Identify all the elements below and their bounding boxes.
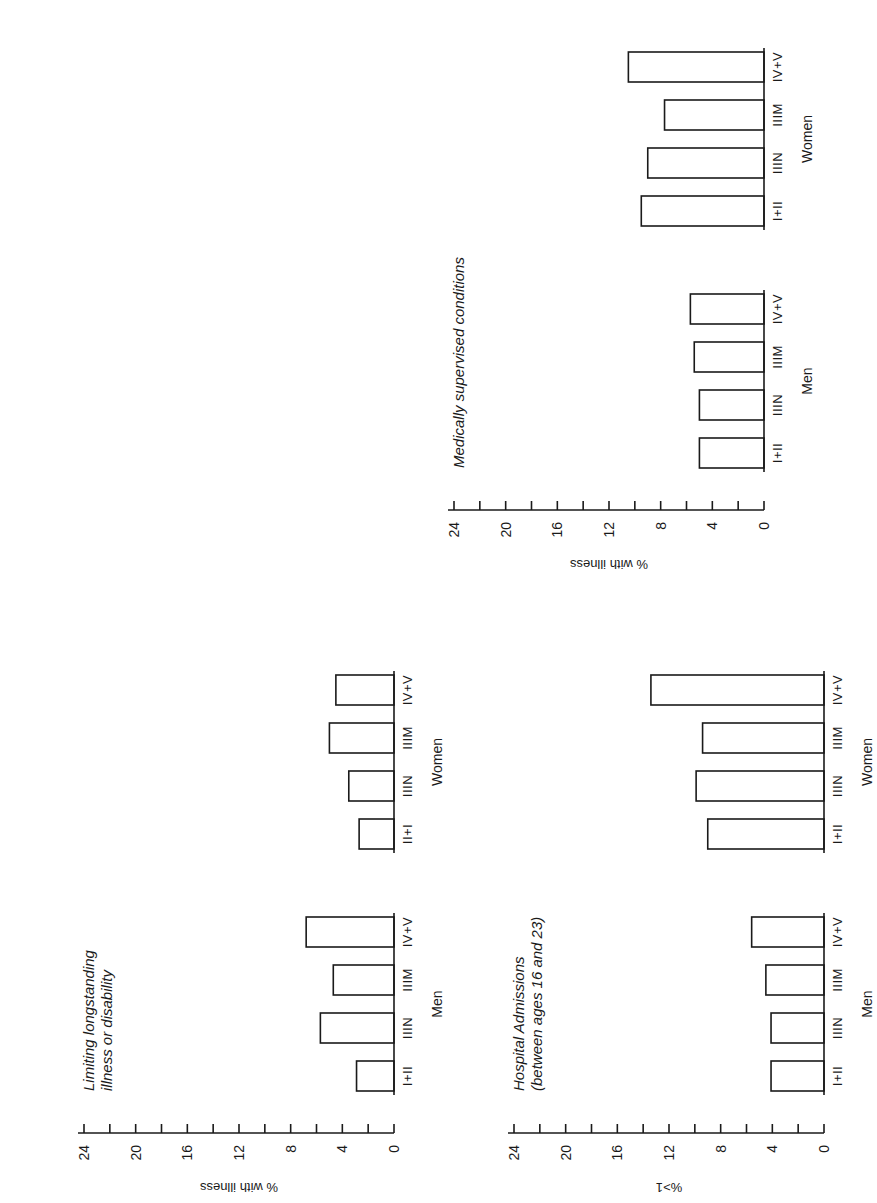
bar-men-iv-plus-v xyxy=(752,917,824,947)
bar-women-iiin xyxy=(648,148,764,178)
y-tick-label: 4 xyxy=(704,522,720,530)
bar-women-iv-plus-v xyxy=(651,675,824,705)
group-label-men: Men xyxy=(859,990,875,1017)
y-axis-title: %>1 xyxy=(656,1180,682,1195)
bar-men-iiin xyxy=(320,1013,394,1043)
category-label: IIIN xyxy=(830,1017,845,1039)
bar-women-iv-plus-v xyxy=(628,52,764,82)
bar-men-iiim xyxy=(766,965,824,995)
y-tick-label: 16 xyxy=(179,1145,195,1161)
chart-title: illness or disability xyxy=(98,969,115,1091)
y-tick-label: 12 xyxy=(661,1145,677,1161)
category-label: IIIM xyxy=(770,103,785,127)
category-label: I+II xyxy=(400,1066,415,1086)
bar-women-iiim xyxy=(665,100,764,130)
category-label: I+II xyxy=(770,443,785,463)
category-label: IV+V xyxy=(770,294,785,325)
y-axis-title: % with illness xyxy=(569,557,648,572)
bar-women-i-plus-ii xyxy=(708,819,824,849)
chart-title: Medically supervised conditions xyxy=(450,257,467,468)
group-label-men: Men xyxy=(429,990,445,1017)
y-tick-label: 12 xyxy=(231,1145,247,1161)
category-label: IIIN xyxy=(770,152,785,174)
category-label: IV+V xyxy=(770,52,785,83)
category-label: II+I xyxy=(400,824,415,844)
group-label-men: Men xyxy=(799,367,815,394)
y-tick-label: 4 xyxy=(334,1145,350,1153)
category-label: IIIN xyxy=(830,775,845,797)
bar-women-iiim xyxy=(329,723,394,753)
y-tick-label: 20 xyxy=(498,522,514,538)
category-label: IIIM xyxy=(400,726,415,750)
bar-men-i-plus-ii xyxy=(771,1061,824,1091)
category-label: IIIN xyxy=(400,775,415,797)
chart-title: Hospital Admissions xyxy=(510,956,527,1091)
bar-men-iiim xyxy=(694,342,764,372)
category-label: IIIN xyxy=(770,394,785,416)
category-label: IIIM xyxy=(770,345,785,369)
y-tick-label: 24 xyxy=(506,1145,522,1161)
bar-men-i-plus-ii xyxy=(699,438,764,468)
category-label: IV+V xyxy=(830,675,845,706)
chart-title: (between ages 16 and 23) xyxy=(528,917,545,1091)
y-tick-label: 8 xyxy=(713,1145,729,1153)
category-label: IV+V xyxy=(400,917,415,948)
category-label: IIIM xyxy=(400,968,415,992)
y-tick-label: 4 xyxy=(764,1145,780,1153)
bar-women-i-plus-ii xyxy=(641,196,764,226)
category-label: I+II xyxy=(830,824,845,844)
group-label-women: Women xyxy=(859,738,875,786)
group-label-women: Women xyxy=(429,738,445,786)
group-label-women: Women xyxy=(799,115,815,163)
y-tick-label: 24 xyxy=(446,522,462,538)
y-tick-label: 24 xyxy=(76,1145,92,1161)
y-axis-title: % with illness xyxy=(199,1180,278,1195)
bar-women-iiim xyxy=(703,723,824,753)
bar-women-iiin xyxy=(349,771,394,801)
bar-men-iiin xyxy=(771,1013,824,1043)
category-label: IIIN xyxy=(400,1017,415,1039)
bar-men-i-plus-ii xyxy=(357,1061,394,1091)
bar-men-iiin xyxy=(699,390,764,420)
chart-title: Limiting longstanding xyxy=(80,949,97,1091)
category-label: IIIM xyxy=(830,968,845,992)
bar-women-iiin xyxy=(696,771,824,801)
y-tick-label: 8 xyxy=(283,1145,299,1153)
bar-women-i-plus-ii xyxy=(359,819,394,849)
y-tick-label: 0 xyxy=(386,1145,402,1153)
bar-men-iv-plus-v xyxy=(690,294,764,324)
category-label: IV+V xyxy=(400,675,415,706)
y-tick-label: 8 xyxy=(653,522,669,530)
y-tick-label: 0 xyxy=(816,1145,832,1153)
y-tick-label: 12 xyxy=(601,522,617,538)
category-label: IIIM xyxy=(830,726,845,750)
category-label: I+II xyxy=(830,1066,845,1086)
category-label: IV+V xyxy=(830,917,845,948)
bar-men-iv-plus-v xyxy=(306,917,394,947)
y-tick-label: 16 xyxy=(549,522,565,538)
bar-men-iiim xyxy=(333,965,394,995)
y-tick-label: 20 xyxy=(558,1145,574,1161)
y-tick-label: 0 xyxy=(756,522,772,530)
bar-women-iv-plus-v xyxy=(336,675,394,705)
category-label: I+II xyxy=(770,201,785,221)
y-tick-label: 16 xyxy=(609,1145,625,1161)
y-tick-label: 20 xyxy=(128,1145,144,1161)
